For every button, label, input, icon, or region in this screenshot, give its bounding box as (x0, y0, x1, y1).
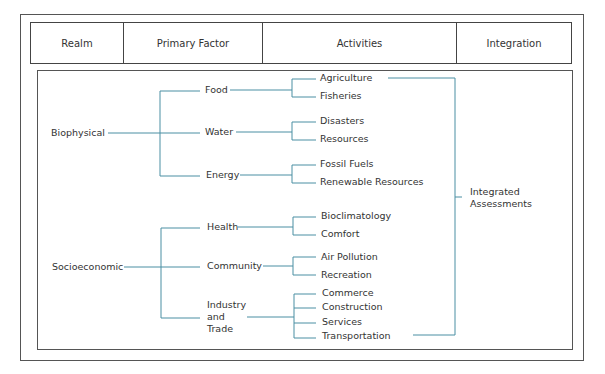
activity-fossil-fuels: Fossil Fuels (320, 158, 374, 170)
activity-comfort: Comfort (321, 228, 360, 240)
activity-resources: Resources (320, 133, 369, 145)
activity-construction: Construction (322, 301, 383, 313)
factor-food: Food (205, 84, 228, 96)
realm-biophysical: Biophysical (51, 127, 105, 139)
activity-transportation: Transportation (322, 330, 391, 342)
factor-energy: Energy (206, 169, 239, 181)
activity-air-pollution: Air Pollution (321, 251, 378, 263)
factor-health: Health (207, 221, 238, 233)
activity-renewable-resources: Renewable Resources (320, 176, 424, 188)
integration-label-line1: Integrated (470, 186, 520, 198)
factor-industry-and-trade-line2: and (207, 311, 225, 323)
activity-commerce: Commerce (322, 287, 374, 299)
activity-agriculture: Agriculture (320, 72, 372, 84)
integration-label-line2: Assessments (470, 198, 532, 210)
activity-fisheries: Fisheries (320, 90, 362, 102)
factor-industry-and-trade-line3: Trade (207, 323, 233, 335)
activity-bioclimatology: Bioclimatology (321, 210, 391, 222)
activity-recreation: Recreation (321, 269, 372, 281)
factor-industry-and-trade-line1: Industry (207, 299, 246, 311)
factor-community: Community (207, 260, 262, 272)
factor-water: Water (205, 126, 233, 138)
activity-disasters: Disasters (320, 115, 364, 127)
activity-services: Services (322, 316, 362, 328)
realm-socioeconomic: Socioeconomic (52, 261, 123, 273)
